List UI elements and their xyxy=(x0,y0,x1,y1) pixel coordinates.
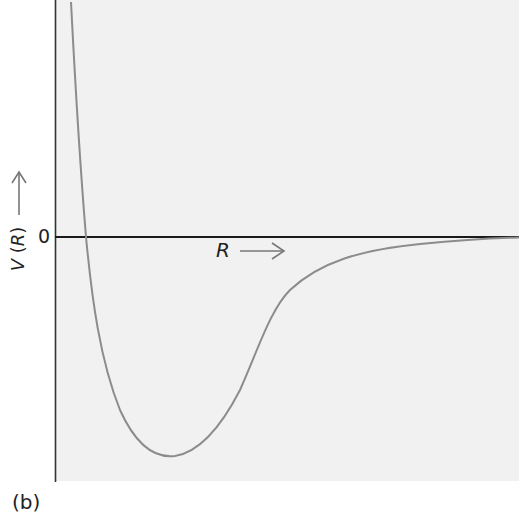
x-axis-label: R xyxy=(216,238,230,262)
y-tick-zero: 0 xyxy=(38,225,50,247)
y-axis-label: V (R) xyxy=(7,194,31,304)
potential-energy-chart xyxy=(0,0,519,518)
panel-label: (b) xyxy=(12,490,40,514)
